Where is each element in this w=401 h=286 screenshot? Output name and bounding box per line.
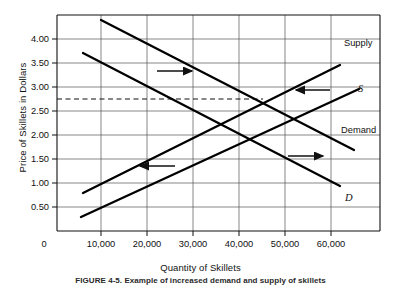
- x-tick-20000: 20,000: [133, 239, 161, 249]
- y-tick-4-00: 4.00: [31, 34, 49, 44]
- x-tick-10000: 10,000: [87, 239, 115, 249]
- figure-container: Price of Skillets in Dollars: [0, 0, 401, 286]
- x-tick-0: 0: [41, 239, 46, 249]
- y-tick-3-00: 3.00: [31, 82, 49, 92]
- curve-label-s: S: [358, 83, 364, 94]
- y-tick-0-50: 0.50: [31, 202, 49, 212]
- x-tick-30000: 30,000: [179, 239, 207, 249]
- curve-label-demand: Demand: [341, 125, 376, 135]
- y-tick-1-50: 1.50: [31, 154, 49, 164]
- curve-label-d: D: [344, 192, 353, 203]
- supply-demand-chart: 4.00 3.50 3.00 2.50 2.00 1.50 1.00 0.50 …: [0, 0, 401, 286]
- y-tick-1-00: 1.00: [31, 178, 49, 188]
- curve-demand-original: [83, 53, 340, 186]
- y-axis-tick-labels: 4.00 3.50 3.00 2.50 2.00 1.50 1.00 0.50: [31, 34, 49, 212]
- x-tick-40000: 40,000: [225, 239, 253, 249]
- x-axis-tick-labels: 0 10,000 20,000 30,000 40,000 50,000 60,…: [41, 239, 345, 249]
- y-tick-3-50: 3.50: [31, 58, 49, 68]
- figure-caption: FIGURE 4-5. Example of increased demand …: [0, 276, 401, 285]
- x-axis-title: Quantity of Skillets: [0, 262, 401, 273]
- x-tick-50000: 50,000: [271, 239, 299, 249]
- x-axis-ticks: [101, 231, 331, 236]
- curve-supply-original: [83, 65, 340, 193]
- curve-supply-shifted: [81, 89, 359, 217]
- curve-label-supply: Supply: [344, 38, 373, 48]
- y-axis-ticks: [52, 39, 57, 207]
- x-tick-60000: 60,000: [317, 239, 345, 249]
- y-tick-2-00: 2.00: [31, 130, 49, 140]
- curve-demand-shifted: [101, 20, 354, 150]
- y-tick-2-50: 2.50: [31, 106, 49, 116]
